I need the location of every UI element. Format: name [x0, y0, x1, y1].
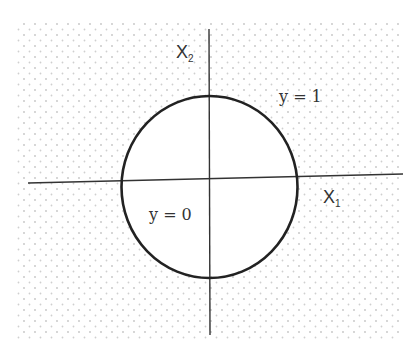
x2-axis-label-subscript: 2 [188, 53, 194, 64]
x1-axis-label-subscript: 1 [335, 198, 341, 209]
x1-axis-label: X1 [323, 188, 341, 209]
region-label-inside: y = 0 [149, 207, 192, 223]
x2-axis-label-text: X [176, 42, 188, 62]
region-label-outside: y = 1 [279, 89, 322, 105]
x1-axis-label-text: X [323, 187, 335, 207]
x2-axis-label: X2 [176, 43, 194, 64]
diagram-graphics [0, 0, 419, 348]
decision-boundary-diagram: X2 X1 y = 1 y = 0 [0, 0, 419, 348]
